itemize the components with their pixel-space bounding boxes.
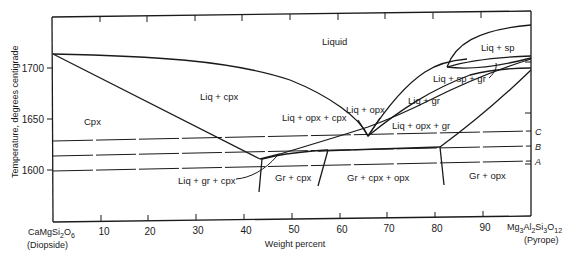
phase-boundaries	[53, 25, 531, 192]
isotherm-b-label: B	[535, 142, 541, 152]
field-liq-sp: Liq + sp	[481, 42, 515, 53]
svg-text:20: 20	[144, 226, 156, 237]
svg-text:30: 30	[192, 225, 204, 236]
field-liq-cpx: Liq + cpx	[200, 91, 239, 102]
y-axis-label: Temperature, degrees centigrade	[10, 45, 20, 178]
isotherm-a-label: A	[534, 157, 541, 167]
y-tick-1650: 1650	[22, 114, 45, 125]
isotherm-c-label: C	[535, 127, 542, 137]
phase-diagram: 1700 1650 1600 Temperature, degrees cent…	[0, 0, 578, 257]
field-gr-cpx: Gr + cpx	[275, 172, 311, 183]
svg-text:80: 80	[431, 223, 443, 234]
diopside-name: (Diopside)	[27, 240, 68, 250]
x-tick-labels: 10 20 30 40 50 60 70 80 90	[98, 222, 491, 237]
svg-text:90: 90	[479, 222, 491, 233]
field-liq-opx-cpx: Liq + opx + cpx	[282, 112, 347, 123]
svg-text:40: 40	[240, 225, 252, 236]
x-axis-label: Weight percent	[265, 239, 326, 249]
svg-text:70: 70	[383, 223, 395, 234]
svg-text:60: 60	[336, 224, 348, 235]
pyrope-formula: Mg3Al2Si3O12	[507, 222, 562, 234]
field-cpx: Cpx	[84, 116, 101, 127]
field-liq-sp-gr: Liq + sp + gr	[433, 73, 486, 84]
field-liq-gr-cpx: Liq + gr + cpx	[178, 175, 236, 186]
diopside-formula: CaMgSi2O6	[28, 227, 75, 239]
field-liq-opx: Liq + opx	[346, 104, 385, 115]
field-liquid: Liquid	[322, 36, 347, 47]
field-gr-opx: Gr + opx	[469, 170, 506, 181]
field-liq-opx-gr: Liq + opx + gr	[392, 120, 450, 131]
y-tick-1600: 1600	[22, 165, 45, 176]
field-liq-gr: Liq + gr	[408, 95, 440, 106]
y-tick-1700: 1700	[22, 63, 45, 74]
svg-text:10: 10	[98, 226, 110, 237]
field-gr-cpx-opx: Gr + cpx + opx	[347, 172, 410, 183]
pyrope-name: (Pyrope)	[524, 235, 559, 245]
svg-text:50: 50	[288, 224, 300, 235]
